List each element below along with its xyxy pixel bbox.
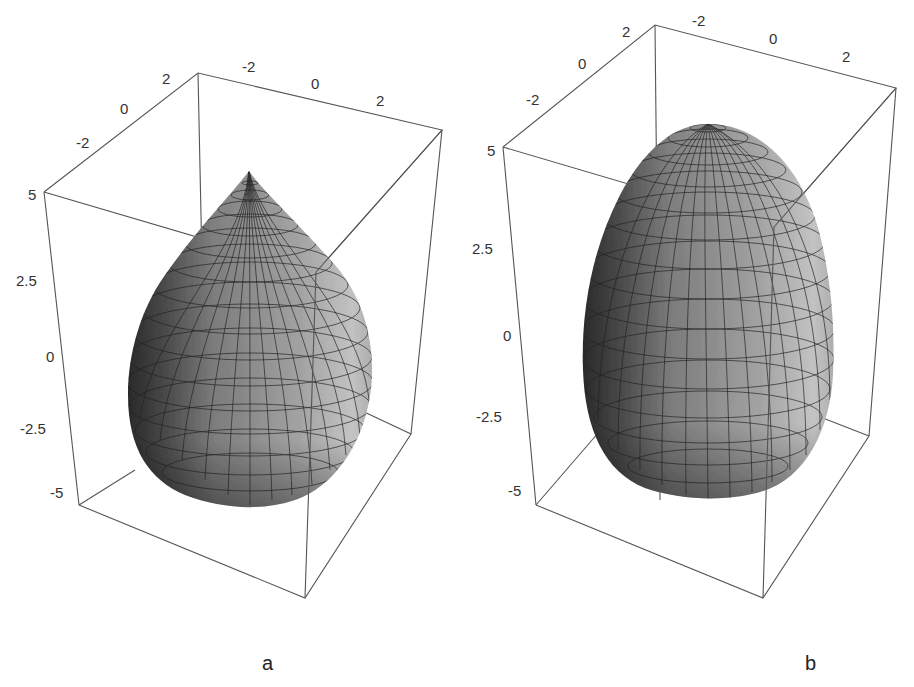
panel-a-z-ticks: 5 2.5 0 -2.5 -5 (16, 186, 63, 501)
panel-b-y-ticks: -2 0 2 (526, 23, 630, 108)
svg-text:-2: -2 (242, 58, 255, 75)
svg-text:0: 0 (311, 75, 319, 92)
panel-b-label: b (805, 652, 816, 674)
svg-text:2: 2 (842, 48, 850, 65)
svg-text:0: 0 (578, 55, 586, 72)
svg-text:2.5: 2.5 (16, 272, 37, 289)
svg-text:-2.5: -2.5 (476, 408, 502, 425)
svg-text:2: 2 (162, 70, 170, 87)
svg-text:0: 0 (769, 30, 777, 47)
svg-text:-5: -5 (50, 484, 63, 501)
panel-b-z-ticks: 5 2.5 0 -2.5 -5 (472, 142, 521, 499)
panel-a-label: a (262, 652, 274, 674)
panel-a-teardrop-surface (127, 171, 373, 507)
panel-b-egg-surface (581, 124, 835, 500)
svg-text:2: 2 (622, 23, 630, 40)
panel-a: -2 0 2 -2 0 2 5 2.5 0 -2.5 -5 a (16, 58, 442, 674)
panel-a-y-ticks: -2 0 2 (76, 70, 170, 151)
svg-text:-2: -2 (692, 12, 705, 29)
svg-text:2: 2 (376, 92, 384, 109)
svg-text:0: 0 (46, 348, 54, 365)
panel-b-x-ticks: -2 0 2 (692, 12, 850, 65)
svg-text:-5: -5 (508, 482, 521, 499)
svg-text:5: 5 (487, 142, 495, 159)
svg-text:0: 0 (120, 100, 128, 117)
panel-b: -2 0 2 -2 0 2 5 2.5 0 -2.5 -5 b (472, 12, 896, 674)
svg-text:5: 5 (28, 186, 36, 203)
panel-a-x-ticks: -2 0 2 (242, 58, 384, 109)
svg-text:-2: -2 (76, 134, 89, 151)
svg-text:0: 0 (503, 327, 511, 344)
svg-text:2.5: 2.5 (472, 240, 493, 257)
svg-text:-2.5: -2.5 (20, 420, 46, 437)
figure-canvas: -2 0 2 -2 0 2 5 2.5 0 -2.5 -5 a (0, 0, 914, 687)
svg-text:-2: -2 (526, 91, 539, 108)
